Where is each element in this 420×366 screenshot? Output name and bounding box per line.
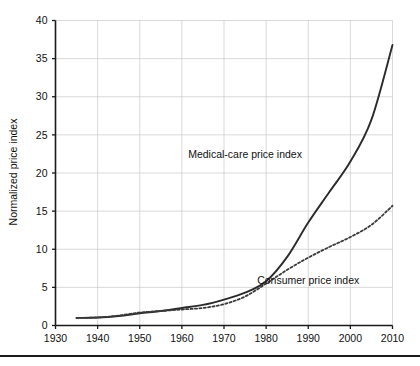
x-tick-label: 1980 <box>254 332 278 344</box>
y-tick-label: 25 <box>36 129 48 141</box>
x-tick-label: 2010 <box>381 332 405 344</box>
x-tick-label: 1940 <box>86 332 110 344</box>
x-axis-ticks: 193019401950196019701980199020002010 <box>44 326 405 344</box>
x-tick-label: 1960 <box>170 332 194 344</box>
series-annotations: Medical-care price indexConsumer price i… <box>188 148 360 287</box>
y-tick-label: 40 <box>36 14 48 26</box>
x-tick-label: 1950 <box>128 332 152 344</box>
y-axis-ticks: 0510152025303540 <box>36 14 56 331</box>
chart-figure: 0510152025303540 19301940195019601970198… <box>0 0 420 366</box>
x-tick-label: 1930 <box>44 332 68 344</box>
bottom-divider <box>0 355 420 357</box>
x-tick-label: 1990 <box>297 332 321 344</box>
annotation-medical-care-price-index: Medical-care price index <box>188 148 303 160</box>
y-tick-label: 20 <box>36 167 48 179</box>
y-tick-label: 15 <box>36 205 48 217</box>
y-tick-label: 35 <box>36 52 48 64</box>
y-axis-title: Normalized price index <box>7 118 19 226</box>
x-tick-label: 1970 <box>212 332 236 344</box>
x-tick-label: 2000 <box>339 332 363 344</box>
y-tick-label: 5 <box>42 281 48 293</box>
normalized-price-index-chart: 0510152025303540 19301940195019601970198… <box>0 0 420 366</box>
y-tick-label: 30 <box>36 90 48 102</box>
series-line-consumer-price-index <box>77 206 393 318</box>
y-tick-label: 10 <box>36 243 48 255</box>
annotation-consumer-price-index: Consumer price index <box>257 274 360 286</box>
y-tick-label: 0 <box>42 319 48 331</box>
